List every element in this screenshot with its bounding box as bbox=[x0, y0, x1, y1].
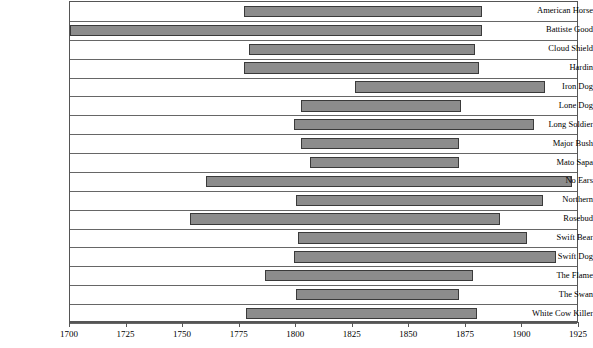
gridline-row bbox=[70, 96, 577, 97]
range-bar[interactable] bbox=[246, 308, 477, 319]
range-bar[interactable] bbox=[310, 157, 459, 168]
range-bar[interactable] bbox=[265, 270, 473, 281]
gridline-row bbox=[70, 191, 577, 192]
gridline-row bbox=[70, 285, 577, 286]
x-axis-line bbox=[69, 322, 578, 323]
gridline-row bbox=[70, 172, 577, 173]
y-axis-label: No Ears bbox=[527, 175, 593, 185]
x-axis-tick bbox=[69, 322, 70, 327]
range-bar[interactable] bbox=[355, 81, 545, 92]
y-axis-label: Major Bush bbox=[527, 138, 593, 148]
gridline-row bbox=[70, 21, 577, 22]
gridline-row bbox=[70, 40, 577, 41]
range-bar[interactable] bbox=[301, 100, 462, 111]
y-axis-label: Cloud Shield bbox=[527, 43, 593, 53]
x-axis-tick-label: 1825 bbox=[343, 329, 361, 340]
gridline-row bbox=[70, 247, 577, 248]
x-axis-tick-label: 1700 bbox=[60, 329, 78, 340]
gridline-row bbox=[70, 59, 577, 60]
x-axis-tick bbox=[578, 322, 579, 327]
x-axis-tick-label: 1750 bbox=[173, 329, 191, 340]
x-axis-tick-label: 1875 bbox=[456, 329, 474, 340]
y-axis-label: Iron Dog bbox=[527, 81, 593, 91]
y-axis-label: White Cow Killer bbox=[527, 308, 593, 318]
x-axis-tick bbox=[521, 322, 522, 327]
gridline-row bbox=[70, 78, 577, 79]
y-axis-label: American Horse bbox=[527, 5, 593, 15]
y-axis-label: Swift Dog bbox=[527, 251, 593, 261]
y-axis-label: Northern bbox=[527, 194, 593, 204]
range-bar[interactable] bbox=[244, 6, 482, 17]
x-axis-tick-label: 1725 bbox=[117, 329, 135, 340]
range-bar[interactable] bbox=[294, 119, 534, 130]
range-bar[interactable] bbox=[294, 251, 556, 262]
y-axis-label: Lone Dog bbox=[527, 100, 593, 110]
gridline-row bbox=[70, 134, 577, 135]
y-axis-label: Battiste Good bbox=[527, 24, 593, 34]
x-axis-tick bbox=[126, 322, 127, 327]
x-axis-tick bbox=[295, 322, 296, 327]
y-axis-label: The Swan bbox=[527, 289, 593, 299]
range-bar[interactable] bbox=[249, 44, 475, 55]
x-axis-tick bbox=[182, 322, 183, 327]
x-axis-tick bbox=[352, 322, 353, 327]
x-axis-tick bbox=[239, 322, 240, 327]
gridline-row bbox=[70, 266, 577, 267]
y-axis-label: Rosebud bbox=[527, 213, 593, 223]
range-bar[interactable] bbox=[296, 289, 459, 300]
gridline-row bbox=[70, 153, 577, 154]
x-axis-tick-label: 1900 bbox=[512, 329, 530, 340]
x-axis-tick bbox=[465, 322, 466, 327]
x-axis-tick-label: 1925 bbox=[569, 329, 587, 340]
x-axis-tick-label: 1800 bbox=[286, 329, 304, 340]
range-bar[interactable] bbox=[244, 62, 479, 73]
x-axis-tick-label: 1850 bbox=[399, 329, 417, 340]
x-axis-tick bbox=[408, 322, 409, 327]
range-bar[interactable] bbox=[190, 213, 500, 224]
range-bar[interactable] bbox=[296, 195, 543, 206]
y-axis-label: Long Soldier bbox=[527, 119, 593, 129]
gridline-row bbox=[70, 115, 577, 116]
gridline-row bbox=[70, 229, 577, 230]
range-bar[interactable] bbox=[70, 25, 482, 36]
range-bar[interactable] bbox=[301, 138, 459, 149]
x-axis-tick-label: 1775 bbox=[230, 329, 248, 340]
y-axis-label: Hardin bbox=[527, 62, 593, 72]
range-bar[interactable] bbox=[298, 232, 526, 243]
y-axis-label: Mato Sapa bbox=[527, 157, 593, 167]
gridline-row bbox=[70, 304, 577, 305]
gridline-row bbox=[70, 210, 577, 211]
range-bar[interactable] bbox=[206, 176, 572, 187]
gridline-row bbox=[70, 323, 577, 324]
plot-area bbox=[69, 1, 578, 322]
y-axis-label: The Flame bbox=[527, 270, 593, 280]
y-axis-label: Swift Bear bbox=[527, 232, 593, 242]
winter-count-range-chart: American HorseBattiste GoodCloud ShieldH… bbox=[0, 0, 593, 348]
